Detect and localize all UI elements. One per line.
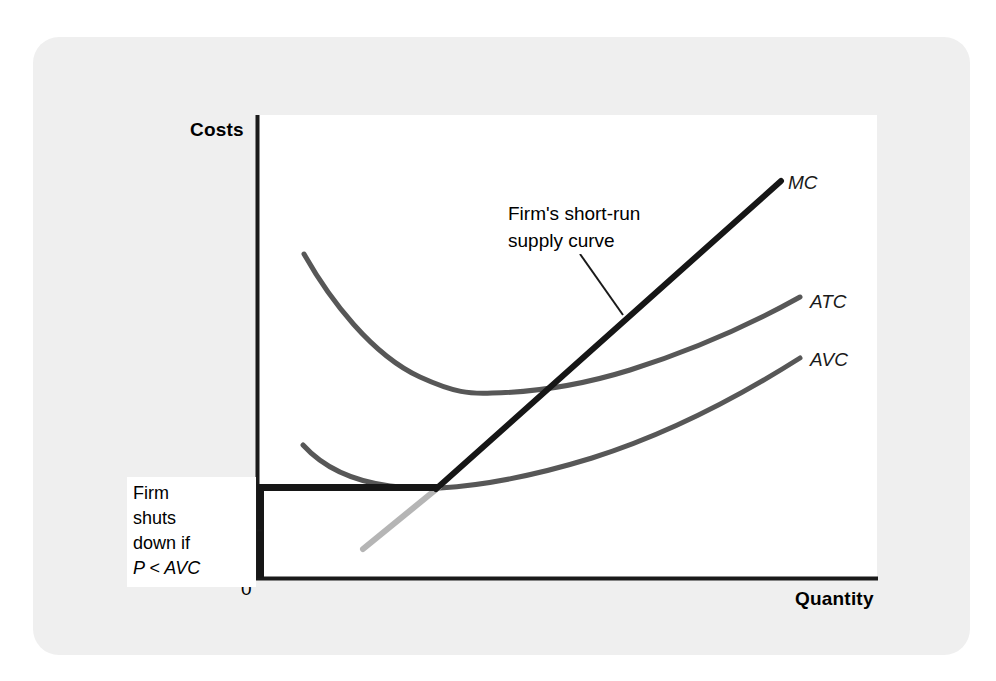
- shutdown-price-segment: [261, 488, 439, 579]
- supply-curve-annotation: Firm's short-run supply curve: [508, 200, 640, 254]
- supply-curve-annotation-line-2: supply curve: [508, 227, 640, 254]
- shutdown-note-line-2: shuts: [133, 506, 250, 531]
- shutdown-note-line-3: down if: [133, 531, 250, 556]
- mc-curve-label: MC: [786, 172, 820, 194]
- y-axis-title: Costs: [190, 119, 244, 141]
- shutdown-note: Firm shuts down if P < AVC: [127, 477, 256, 587]
- avc-curve-label: AVC: [808, 349, 850, 371]
- shutdown-note-line-1: Firm: [133, 481, 250, 506]
- x-axis-title: Quantity: [795, 588, 874, 610]
- supply-curve-annotation-line-1: Firm's short-run: [508, 200, 640, 227]
- avc-curve: [303, 358, 800, 489]
- mc-curve-below-avc: [363, 487, 439, 549]
- figure-root: Costs Quantity 0 Firm shuts down if P < …: [0, 0, 996, 681]
- supply-curve-leader-line: [580, 254, 623, 315]
- atc-curve-label: ATC: [808, 291, 849, 313]
- shutdown-note-line-4: P < AVC: [133, 556, 250, 581]
- atc-curve: [304, 254, 800, 393]
